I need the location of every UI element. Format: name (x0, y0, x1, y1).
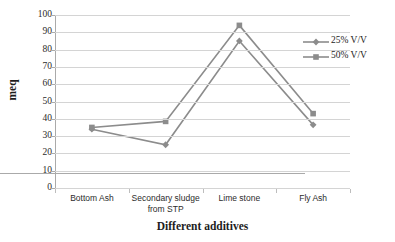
series-line-2 (92, 25, 313, 127)
gridline (55, 67, 350, 68)
series-line-1 (92, 41, 313, 145)
y-axis-tick-label: 40 (26, 114, 52, 124)
x-axis-category-label-line: from STP (117, 204, 215, 215)
y-axis-tick-mark (51, 153, 55, 154)
line-chart: meq 0102030405060708090100 Bottom AshSec… (0, 0, 395, 242)
gridline (55, 119, 350, 120)
gridline (55, 136, 350, 137)
y-axis-tick-mark (51, 50, 55, 51)
gridline (55, 84, 350, 85)
data-point-marker (310, 111, 316, 117)
y-axis-tick-label: 20 (26, 149, 52, 159)
legend-square-marker-icon (303, 49, 329, 61)
y-axis-tick-label: 30 (26, 131, 52, 141)
y-axis-tick-mark (51, 84, 55, 85)
x-axis-tick-mark (55, 189, 56, 193)
legend-item-1[interactable]: 25% V/V (303, 32, 393, 47)
y-axis-tick-mark (51, 102, 55, 103)
y-axis-tick-labels: 0102030405060708090100 (26, 15, 52, 188)
y-axis-tick-label: 60 (26, 79, 52, 89)
legend-label: 25% V/V (329, 35, 367, 45)
legend-diamond-marker-icon (303, 34, 329, 46)
y-axis-tick-mark (51, 67, 55, 68)
legend-label: 50% V/V (329, 50, 367, 60)
x-axis-title: Different additives (55, 220, 350, 232)
gridline (55, 171, 350, 172)
y-axis-tick-label: 0 (26, 183, 52, 193)
gridline (55, 102, 350, 103)
x-axis-category-label: Fly Ash (264, 193, 362, 204)
x-axis-tick-mark (276, 189, 277, 193)
gridline (55, 15, 350, 16)
x-axis-tick-mark (129, 189, 130, 193)
data-point-marker (89, 125, 95, 131)
y-axis-tick-label: 90 (26, 28, 52, 38)
y-axis-tick-label: 80 (26, 45, 52, 55)
y-axis-tick-label: 70 (26, 62, 52, 72)
legend-item-2[interactable]: 50% V/V (303, 47, 393, 62)
data-point-marker (237, 23, 243, 29)
x-axis-tick-mark (350, 189, 351, 193)
y-axis-tick-label: 100 (26, 10, 52, 20)
x-axis-category-label-line: Fly Ash (264, 193, 362, 204)
y-axis-tick-label: 10 (26, 166, 52, 176)
y-axis-title: meq (6, 60, 18, 120)
y-axis-tick-mark (51, 119, 55, 120)
y-axis-tick-mark (51, 136, 55, 137)
x-axis-tick-mark (203, 189, 204, 193)
y-axis-tick-mark (51, 15, 55, 16)
x-axis-category-labels: Bottom AshSecondary sludgefrom STPLime s… (55, 193, 350, 221)
gridline (55, 153, 350, 154)
chart-legend: 25% V/V50% V/V (303, 32, 393, 62)
y-axis-tick-mark (51, 32, 55, 33)
y-axis-tick-label: 50 (26, 97, 52, 107)
y-axis-tick-mark (51, 171, 55, 172)
